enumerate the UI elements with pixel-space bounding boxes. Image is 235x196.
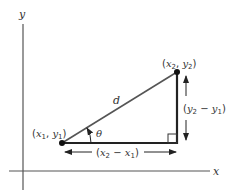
y-axis-label: y: [18, 8, 26, 21]
x-axis-label: x: [213, 165, 220, 178]
distance-formula-diagram: y x (x1, y1) (x2, y2) d θ (y2 − y1) (x2 …: [0, 0, 235, 196]
angle-theta-label: θ: [96, 128, 102, 139]
hypotenuse-d: [62, 72, 177, 143]
vertical-diff-label: (y2 − y1): [183, 103, 226, 116]
hypotenuse-label: d: [113, 94, 120, 107]
angle-arc-arrow: [87, 128, 91, 143]
horizontal-diff-label: (x2 − x1): [96, 147, 139, 160]
right-angle-marker: [168, 134, 177, 143]
point-2-label: (x2, y2): [162, 58, 197, 71]
point-1-label: (x1, y1): [32, 128, 67, 141]
